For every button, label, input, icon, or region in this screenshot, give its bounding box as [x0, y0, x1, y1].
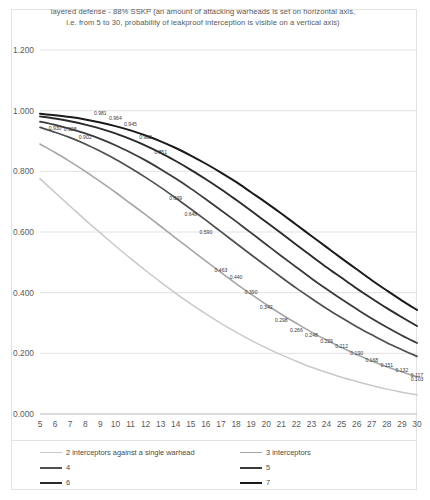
- y-axis-tick-label: 1.000: [13, 106, 34, 116]
- legend-item[interactable]: 5: [240, 463, 410, 472]
- y-axis-tick-label: 1.200: [13, 45, 34, 55]
- plot-area: 1.2001.0000.8000.6000.4000.2000.00056789…: [0, 0, 430, 500]
- legend-item[interactable]: 7: [240, 478, 410, 487]
- data-point-label: 0.648: [184, 211, 197, 217]
- x-axis-tick-label: 20: [262, 419, 272, 429]
- data-point-label: 0.590: [200, 229, 213, 235]
- x-axis-tick-label: 10: [111, 419, 121, 429]
- x-axis-tick-label: 25: [337, 419, 347, 429]
- data-point-label: 0.699: [169, 195, 182, 201]
- y-axis-tick-label: 0.400: [13, 288, 34, 298]
- data-point-label: 0.463: [215, 267, 228, 273]
- x-axis-tick-label: 14: [171, 419, 181, 429]
- legend-line-swatch: [240, 482, 262, 484]
- x-axis-tick-label: 28: [382, 419, 392, 429]
- data-point-label: 0.190: [350, 350, 363, 356]
- legend-item-label: 5: [266, 463, 270, 472]
- legend-grid: 2 interceptors against a single warhead3…: [40, 445, 410, 490]
- x-axis-tick-label: 8: [83, 419, 88, 429]
- data-point-label: 0.930: [49, 125, 62, 131]
- x-axis-tick-label: 7: [68, 419, 73, 429]
- data-point-label: 0.266: [290, 327, 303, 333]
- data-series-line: [40, 114, 417, 310]
- data-point-label: 0.168: [365, 357, 378, 363]
- x-axis-tick-label: 30: [412, 419, 422, 429]
- legend-item-label: 6: [66, 478, 70, 487]
- chart-legend: 2 interceptors against a single warhead3…: [12, 440, 416, 490]
- data-point-label: 0.151: [380, 362, 393, 368]
- data-point-label: 0.132: [396, 367, 409, 373]
- line-chart-svg: 1.2001.0000.8000.6000.4000.2000.00056789…: [0, 0, 430, 500]
- x-axis-tick-label: 29: [397, 419, 407, 429]
- x-axis-tick-label: 23: [307, 419, 317, 429]
- data-point-label: 0.902: [79, 134, 92, 140]
- x-axis-tick-label: 27: [367, 419, 377, 429]
- legend-item[interactable]: 6: [40, 478, 240, 487]
- x-axis-tick-label: 19: [246, 419, 256, 429]
- data-point-label: 0.298: [275, 317, 288, 323]
- data-series-line: [40, 144, 417, 377]
- data-point-label: 0.903: [139, 134, 152, 140]
- data-point-label: 0.945: [124, 121, 137, 127]
- data-point-label: 0.229: [320, 338, 333, 344]
- x-axis-tick-label: 13: [156, 419, 166, 429]
- x-axis-tick-label: 11: [126, 419, 135, 429]
- data-point-label: 0.212: [335, 343, 348, 349]
- x-axis-tick-label: 22: [292, 419, 302, 429]
- x-axis-tick-label: 21: [277, 419, 287, 429]
- legend-item-label: 2 interceptors against a single warhead: [66, 448, 195, 457]
- legend-line-swatch: [40, 452, 62, 453]
- x-axis-tick-label: 9: [98, 419, 103, 429]
- legend-item-label: 4: [66, 463, 70, 472]
- x-axis-tick-label: 6: [53, 419, 58, 429]
- x-axis-tick-label: 15: [186, 419, 196, 429]
- data-point-label: 0.440: [230, 274, 243, 280]
- y-axis-tick-label: 0.600: [13, 227, 34, 237]
- legend-item-label: 3 interceptors: [266, 448, 311, 457]
- data-point-label: 0.390: [245, 289, 258, 295]
- legend-line-swatch: [40, 482, 62, 484]
- x-axis-tick-label: 16: [201, 419, 211, 429]
- data-series-line: [40, 127, 417, 356]
- data-point-label: 0.928: [64, 126, 77, 132]
- legend-line-swatch: [40, 467, 62, 469]
- y-axis-tick-label: 0.200: [13, 348, 34, 358]
- legend-line-swatch: [240, 467, 262, 469]
- x-axis-tick-label: 24: [322, 419, 332, 429]
- legend-item[interactable]: 4: [40, 463, 240, 472]
- x-axis-tick-label: 17: [216, 419, 226, 429]
- data-series-line: [40, 116, 417, 326]
- legend-item[interactable]: 2 interceptors against a single warhead: [40, 448, 240, 457]
- data-point-label: 0.964: [109, 115, 122, 121]
- data-point-label: 0.981: [94, 110, 107, 116]
- x-axis-tick-label: 26: [352, 419, 362, 429]
- legend-line-swatch: [240, 452, 262, 453]
- data-point-label: 0.103: [411, 376, 424, 382]
- x-axis-tick-label: 18: [231, 419, 241, 429]
- data-point-label: 0.342: [260, 304, 273, 310]
- data-point-label: 0.851: [154, 149, 167, 155]
- x-axis-tick-label: 5: [38, 419, 43, 429]
- y-axis-tick-label: 0.800: [13, 166, 34, 176]
- legend-item-label: 7: [266, 478, 270, 487]
- y-axis-tick-label: 0.000: [13, 409, 34, 419]
- data-point-label: 0.248: [305, 332, 318, 338]
- x-axis-tick-label: 12: [141, 419, 151, 429]
- legend-item[interactable]: 3 interceptors: [240, 448, 410, 457]
- data-series-line: [40, 179, 417, 395]
